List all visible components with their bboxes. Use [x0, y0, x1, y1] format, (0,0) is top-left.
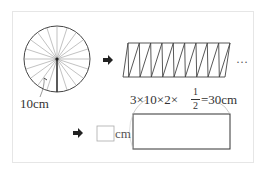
answer-blank-box — [97, 126, 114, 141]
arrow-right-icon — [103, 55, 113, 65]
result-rectangle — [133, 114, 230, 149]
diagram-canvas — [0, 0, 269, 175]
radius-label: 10cm — [20, 97, 49, 110]
divided-circle — [24, 26, 90, 97]
fraction-denominator: 2 — [193, 101, 198, 111]
formula-prefix: 3×10×2× — [130, 93, 178, 106]
formula-suffix: =30cm — [201, 93, 237, 106]
rearranged-strip — [123, 43, 230, 77]
arrow-right-icon — [73, 128, 83, 138]
fraction-numerator: 1 — [193, 87, 198, 97]
answer-unit: cm — [115, 127, 131, 140]
continuation-ellipsis: … — [236, 53, 248, 65]
